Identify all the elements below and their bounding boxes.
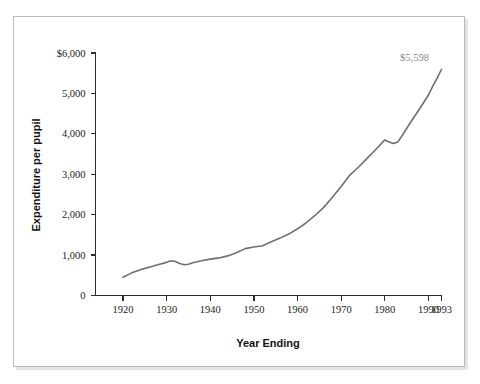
x-axis-title: Year Ending	[236, 337, 300, 349]
x-axis-tick-labels: 192019301940195019601970198019901993	[113, 304, 453, 315]
x-tick-label: 1993	[431, 304, 452, 315]
x-tick-label: 1980	[374, 304, 395, 315]
annotation-layer: $5,598	[400, 52, 429, 63]
y-tick-label: 5,000	[62, 88, 86, 99]
x-tick-label: 1960	[287, 304, 308, 315]
expenditure-series-line	[123, 69, 442, 277]
y-tick-label: 3,000	[62, 169, 86, 180]
y-tick-label: 1,000	[62, 250, 86, 261]
x-tick-label: 1930	[156, 304, 177, 315]
y-tick-label: 2,000	[62, 209, 86, 220]
y-axis-ticks	[91, 53, 96, 296]
line-chart: 01,0002,0003,0004,0005,000$6,000 1920193…	[0, 0, 480, 384]
x-tick-label: 1950	[243, 304, 264, 315]
x-axis-ticks	[123, 296, 442, 301]
y-tick-label: 4,000	[62, 128, 86, 139]
y-tick-label: $6,000	[57, 48, 86, 59]
y-axis-tick-labels: 01,0002,0003,0004,0005,000$6,000	[57, 48, 86, 302]
x-tick-label: 1970	[331, 304, 352, 315]
end-value-label: $5,598	[400, 52, 429, 63]
y-tick-label: 0	[80, 290, 85, 301]
x-tick-label: 1940	[200, 304, 221, 315]
y-axis-title: Expenditure per pupil	[30, 118, 42, 231]
x-tick-label: 1920	[113, 304, 134, 315]
chart-page: 01,0002,0003,0004,0005,000$6,000 1920193…	[0, 0, 480, 384]
